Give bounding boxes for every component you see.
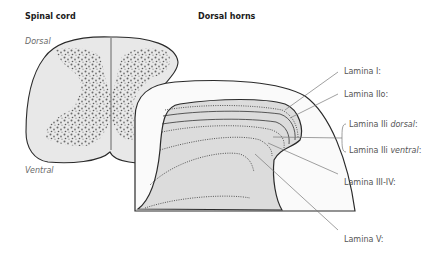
label-suffix: : bbox=[415, 120, 418, 129]
label-italic: ventral bbox=[390, 146, 418, 155]
label-lamina-i: Lamina I: bbox=[344, 67, 381, 76]
label-prefix: Lamina IIi bbox=[349, 146, 390, 155]
label-lamina-iii-dorsal: Lamina IIi dorsal: bbox=[349, 120, 418, 129]
label-italic: dorsal bbox=[390, 120, 415, 129]
label-lamina-iio: Lamina IIo: bbox=[344, 90, 388, 99]
label-prefix: Lamina IIi bbox=[349, 120, 390, 129]
label-suffix: : bbox=[419, 146, 422, 155]
label-lamina-iii-ventral: Lamina IIi ventral: bbox=[349, 146, 421, 155]
label-lamina-iii-iv: Lamina III-IV: bbox=[344, 178, 396, 187]
dorsal-horn-inset bbox=[135, 81, 355, 211]
label-lamina-v: Lamina V: bbox=[344, 235, 383, 244]
